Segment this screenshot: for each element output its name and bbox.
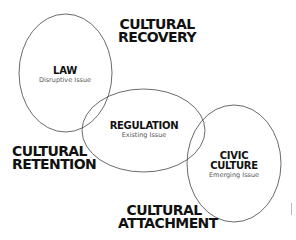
region-cultural-retention: CULTURAL RETENTION bbox=[12, 145, 86, 171]
law-title: LAW bbox=[25, 66, 105, 76]
law-node: LAW Disruptive Issue bbox=[25, 66, 105, 84]
region-cultural-attachment-line2: ATTACHMENT bbox=[118, 217, 210, 230]
region-cultural-attachment: CULTURAL ATTACHMENT bbox=[118, 204, 210, 230]
region-cultural-recovery-line2: RECOVERY bbox=[108, 31, 206, 44]
region-cultural-recovery: CULTURAL RECOVERY bbox=[108, 18, 206, 44]
region-cultural-retention-line2: RETENTION bbox=[12, 158, 86, 171]
edge-mark bbox=[291, 203, 292, 215]
regulation-subtitle: Existing Issue bbox=[104, 131, 184, 139]
law-subtitle: Disruptive Issue bbox=[25, 76, 105, 84]
civic-culture-subtitle: Emerging Issue bbox=[194, 171, 274, 179]
regulation-title: REGULATION bbox=[104, 121, 184, 131]
civic-culture-node: CIVIC CULTURE Emerging Issue bbox=[194, 151, 274, 179]
regulation-node: REGULATION Existing Issue bbox=[104, 121, 184, 139]
civic-culture-title-line2: CULTURE bbox=[194, 161, 274, 171]
